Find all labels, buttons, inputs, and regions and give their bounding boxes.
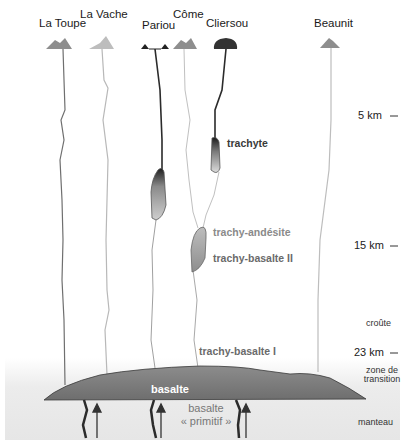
label-manteau: manteau	[358, 418, 393, 427]
magma-plumbing-diagram	[0, 0, 409, 442]
label-pariou: Pariou	[142, 20, 175, 32]
label-come: Côme	[173, 9, 204, 21]
conduit-pariou-lower	[151, 220, 156, 368]
cone-pariou-left	[141, 44, 149, 49]
cone-la-vache	[89, 36, 114, 49]
label-croute: croûte	[366, 319, 391, 328]
label-trachy-basalte-ii: trachy-basalte II	[213, 253, 293, 264]
cone-la-toupe	[46, 38, 72, 49]
reservoir-trachy-basalt-ii	[191, 227, 206, 272]
label-basalte-primitif-line2: « primitif »	[172, 415, 240, 428]
label-depth-15km: 15 km	[354, 240, 384, 251]
label-basalte-primitif: basalte « primitif »	[172, 402, 240, 428]
reservoir-trachyte	[211, 138, 220, 173]
conduit-pariou	[155, 49, 162, 172]
label-beaunit: Beaunit	[314, 18, 353, 30]
cone-beaunit	[320, 38, 340, 48]
cone-pariou-right	[161, 44, 169, 49]
label-zone-transition-line2: transition	[358, 375, 406, 384]
label-zone-transition: zone de transition	[358, 366, 406, 384]
conduit-cliersou	[215, 49, 226, 138]
label-depth-23km: 23 km	[354, 347, 384, 358]
conduit-cliersou-lower	[203, 172, 219, 228]
cone-come	[173, 38, 197, 49]
label-basalte: basalte	[151, 384, 189, 395]
label-depth-5km: 5 km	[358, 110, 382, 121]
label-la-vache: La Vache	[80, 9, 128, 21]
label-cliersou: Cliersou	[206, 18, 248, 30]
conduit-beaunit	[318, 48, 331, 372]
reservoir-pariou	[151, 168, 166, 220]
label-trachyte: trachyte	[227, 138, 268, 149]
conduit-come-lower	[193, 270, 198, 368]
conduit-come	[184, 49, 198, 228]
cone-cliersou	[214, 38, 237, 49]
label-basalte-primitif-line1: basalte	[172, 402, 240, 415]
label-trachy-andesite: trachy-andésite	[213, 227, 291, 238]
conduit-la-toupe	[60, 49, 65, 385]
conduit-la-vache	[102, 49, 109, 375]
label-trachy-basalte-i: trachy-basalte I	[199, 346, 276, 357]
